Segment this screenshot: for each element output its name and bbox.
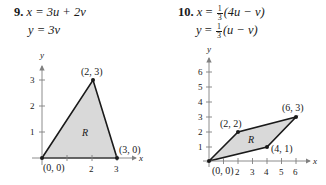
y-tick-3: 3	[198, 112, 203, 122]
graph-10: x y 2 3 4 5 6 1 2 3 4 5 6 (0, 0) (2, 2) …	[198, 44, 317, 177]
y-tick-3: 3	[30, 75, 35, 85]
vertex-label-6-3: (6, 3)	[282, 102, 304, 114]
region-label: R	[247, 134, 254, 145]
vertex-label-origin: (0, 0)	[212, 165, 234, 177]
x-axis-label: x	[312, 156, 317, 166]
vertex-label-2-2: (2, 2)	[220, 118, 242, 130]
x-tick-2: 2	[89, 164, 94, 174]
x-tick-5: 5	[279, 167, 284, 177]
x-tick-3: 3	[114, 164, 119, 174]
vertex-label-origin: (0, 0)	[43, 162, 65, 174]
y-tick-1: 1	[198, 142, 203, 152]
y-tick-2: 2	[30, 101, 35, 111]
y-tick-6: 6	[198, 67, 203, 77]
x-tick-6: 6	[293, 167, 298, 177]
y-tick-2: 2	[198, 127, 203, 137]
graphs: x y 2 3 1 2 3 (0, 0) (2, 3) (3, 0) R	[0, 0, 326, 185]
x-tick-4: 4	[264, 167, 269, 177]
y-axis-label: y	[39, 50, 44, 60]
x-tick-2: 2	[235, 167, 240, 177]
y-tick-1: 1	[30, 127, 35, 137]
graph-9: x y 2 3 1 2 3 (0, 0) (2, 3) (3, 0) R	[30, 50, 143, 174]
y-axis-label: y	[206, 44, 211, 54]
vertex-label-4-1: (4, 1)	[271, 143, 293, 155]
vertex-label-apex: (2, 3)	[81, 66, 103, 78]
y-tick-5: 5	[198, 82, 203, 92]
x-tick-3: 3	[250, 167, 255, 177]
region-label: R	[81, 127, 88, 138]
y-tick-4: 4	[198, 97, 203, 107]
region-r	[42, 80, 117, 158]
vertex-label-right: (3, 0)	[119, 144, 141, 156]
